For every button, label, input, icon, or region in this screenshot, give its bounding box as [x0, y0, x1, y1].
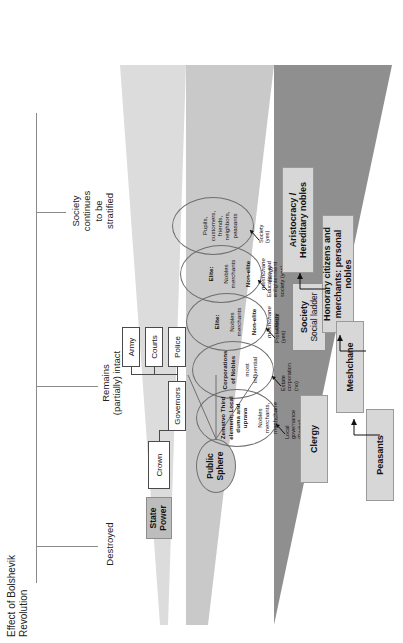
- ellipse-pupils-label: Pupils, customers, friends, neighbors, p…: [194, 199, 245, 253]
- ellipse-pupils-rest: Pupils, customers, friends, neighbors, p…: [201, 199, 238, 253]
- annotation-rail: [36, 113, 37, 583]
- ellipse-elite-2-bold: Elite:: [207, 247, 214, 301]
- connector-bus-courts: [154, 367, 155, 375]
- figure-title: Effect of Bolshevik Revolution: [6, 551, 30, 637]
- connector-governors-drop: [159, 430, 177, 431]
- society-heading: Society Social ladder: [292, 283, 326, 351]
- node-crown[interactable]: Crown: [148, 441, 170, 489]
- annotation-tick-destroyed: [36, 546, 98, 547]
- ellipse-elite-1-bold: Elite:: [213, 295, 220, 349]
- arrow-label-professions: Professions (yes): [274, 295, 287, 343]
- state-power-heading: State Power: [146, 497, 172, 539]
- connector-crown-governors: [159, 431, 160, 441]
- ellipse-zemstvo-label: Zemstvo Third element; Local duma and up…: [212, 391, 285, 445]
- arrow-label-society-yes: Society (yes): [258, 199, 271, 243]
- annotation-tick-remains: [36, 386, 98, 387]
- ladder-arrow-honorary-to-aristocracy: [286, 265, 330, 291]
- ellipse-zemstvo-bold: Zemstvo Third element; Local duma and up…: [219, 391, 248, 445]
- ladder-item-aristocracy[interactable]: Aristocracy / Hereditary nobles: [282, 167, 314, 273]
- ellipse-corporations-label: Corporations of Nobles most influential: [214, 343, 265, 397]
- ellipse-elite-1-rest: Nobles merchants: [228, 295, 243, 349]
- ellipse-corporations-rest: most influential: [243, 343, 258, 397]
- society-heading-line1: Society: [299, 301, 310, 333]
- ellipse-corporations-bold: Corporations of Nobles: [221, 343, 236, 397]
- node-courts[interactable]: Courts: [145, 327, 163, 367]
- connector-bus-army: [131, 367, 132, 375]
- ladder-arrow-meshchane-to-honorary: [326, 327, 370, 353]
- ellipse-elite-2-rest: Nobles merchants: [222, 247, 237, 301]
- diagram-canvas: Effect of Bolshevik Revolution Destroyed…: [0, 0, 403, 643]
- rotated-figure-wrapper: Effect of Bolshevik Revolution Destroyed…: [0, 0, 403, 643]
- connector-bus-police: [177, 367, 178, 375]
- arrow-estate-corporation: [268, 373, 280, 387]
- ellipse-zemstvo-rest: Nobles merchants, meshchane: [256, 391, 278, 445]
- ladder-arrow-peasants-to-meshchane: [340, 411, 384, 437]
- arrow-education-enlightenment: [254, 277, 266, 291]
- annotation-destroyed: Destroyed: [104, 501, 115, 587]
- arrow-local-governance: [272, 421, 284, 435]
- arrow-society-yes: [246, 227, 258, 241]
- ladder-item-clergy[interactable]: Clergy: [300, 395, 328, 483]
- annotation-society-stratified: Society continues to be stratified: [70, 171, 116, 251]
- node-police[interactable]: Police: [168, 327, 186, 367]
- node-army[interactable]: Army: [122, 327, 140, 367]
- ellipse-elite-1-bold2: Non-elite: [250, 295, 257, 349]
- arrow-label-estate-corporation: Estate corporation (no): [280, 345, 299, 391]
- ellipse-elite-2-bold2: Non-elite: [244, 247, 251, 301]
- society-heading-line2: Social ladder: [309, 292, 319, 341]
- node-governors[interactable]: Governors: [168, 381, 186, 431]
- annotation-remains-partially-intact: Remains (partially) intact: [100, 331, 123, 435]
- annotation-tick-society: [36, 212, 66, 213]
- arrow-professions: [262, 325, 274, 339]
- figure: Effect of Bolshevik Revolution Destroyed…: [0, 0, 403, 643]
